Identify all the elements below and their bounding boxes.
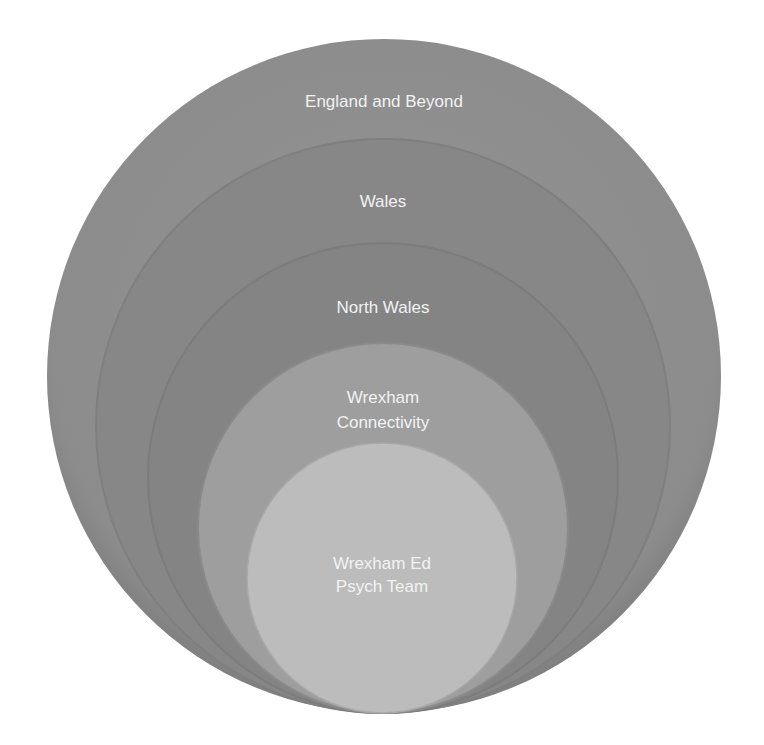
diagram-canvas: England and Beyond Wales North Wales Wre… bbox=[0, 0, 764, 745]
label-ed-psych-line1: Wrexham Ed bbox=[333, 554, 431, 573]
circle-wrexham-ed-psych-team: Wrexham Ed Psych Team bbox=[247, 443, 517, 713]
nested-circles-diagram: England and Beyond Wales North Wales Wre… bbox=[0, 0, 764, 745]
label-wrexham-connectivity-line1: Wrexham bbox=[347, 388, 419, 407]
label-north-wales: North Wales bbox=[337, 298, 430, 317]
label-england-and-beyond: England and Beyond bbox=[305, 92, 463, 111]
label-ed-psych-line2: Psych Team bbox=[336, 577, 428, 596]
label-wales: Wales bbox=[360, 192, 407, 211]
label-wrexham-connectivity-line2: Connectivity bbox=[337, 413, 430, 432]
